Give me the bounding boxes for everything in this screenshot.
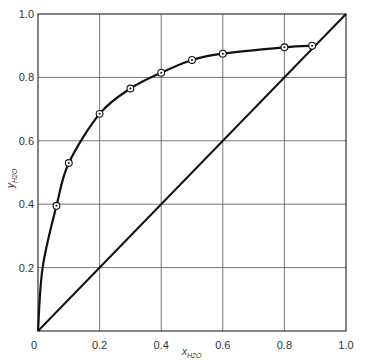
y-axis-ticks: 0.20.40.60.81.0 [19,8,34,274]
x-axis-label: xH2O [181,346,202,359]
x-tick-label: 0.4 [154,339,169,351]
data-point-markers [53,42,315,209]
y-tick-label: 0.2 [19,262,34,274]
data-point [65,160,72,167]
x-tick-label: 0.6 [215,339,230,351]
vle-chart: 00.20.40.60.81.0 0.20.40.60.81.0 xH2O yH… [0,0,368,363]
data-point [158,69,165,76]
x-tick-label: 0.8 [277,339,292,351]
x-axis-ticks: 00.20.40.60.81.0 [31,339,354,351]
data-point [309,42,316,49]
x-tick-label: 1.0 [338,339,353,351]
y-tick-label: 0.6 [19,135,34,147]
y-tick-label: 0.8 [19,71,34,83]
x-tick-label: 0 [31,339,37,351]
y-axis-label: yH2O [5,168,18,189]
data-point [96,110,103,117]
data-point [189,57,196,64]
y-tick-label: 1.0 [19,8,34,20]
data-point [53,202,60,209]
data-point [219,50,226,57]
svg-text:yH2O: yH2O [5,168,18,189]
svg-text:xH2O: xH2O [181,346,202,359]
y-tick-label: 0.4 [19,198,34,210]
data-point [127,85,134,92]
data-point [281,44,288,51]
x-tick-label: 0.2 [92,339,107,351]
